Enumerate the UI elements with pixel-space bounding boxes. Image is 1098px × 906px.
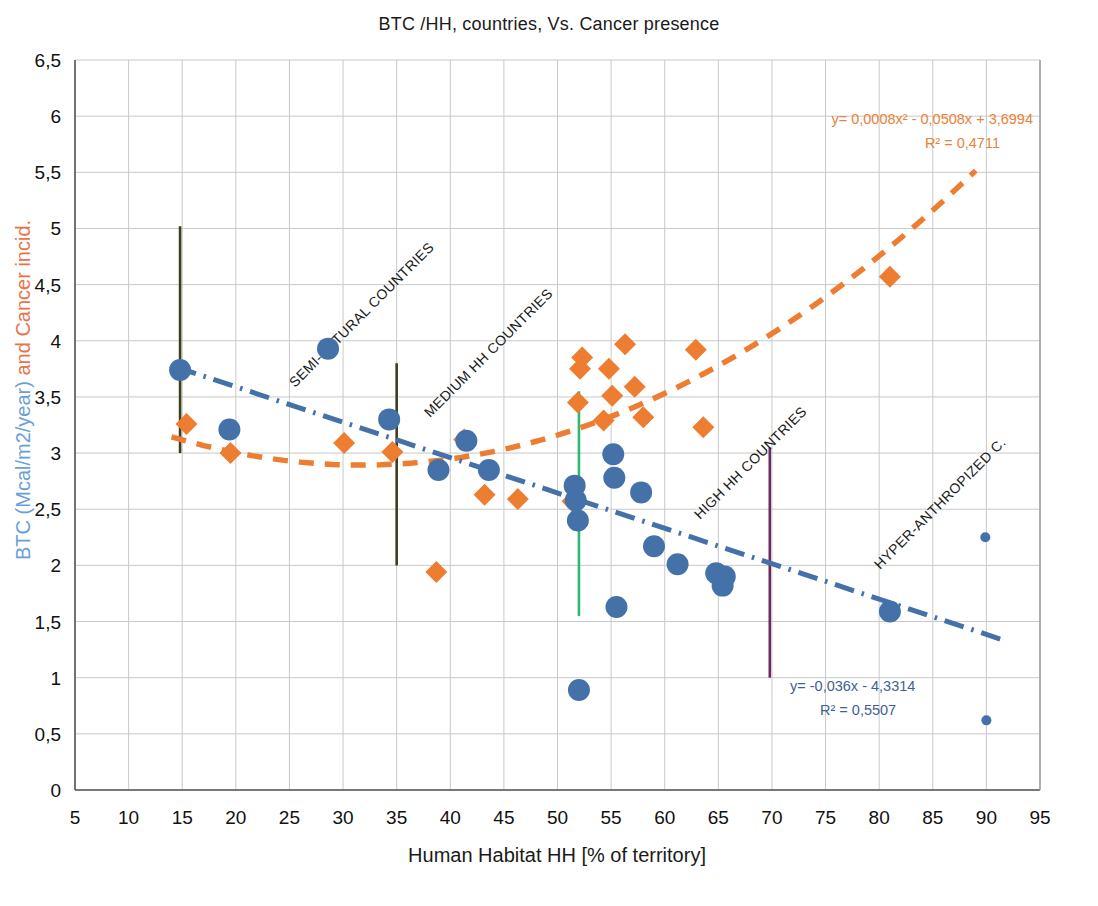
y-axis-tick-label: 4 bbox=[50, 331, 61, 352]
data-point-cancer bbox=[507, 488, 529, 510]
x-axis-tick-label: 80 bbox=[869, 807, 890, 828]
data-point-btc bbox=[568, 679, 590, 701]
data-point-cancer bbox=[624, 376, 646, 398]
x-axis-tick-label: 95 bbox=[1029, 807, 1050, 828]
x-axis-tick-label: 50 bbox=[547, 807, 568, 828]
data-point-btc bbox=[603, 467, 625, 489]
data-point-btc bbox=[667, 553, 689, 575]
y-axis-tick-label: 5,5 bbox=[35, 162, 61, 183]
data-point-btc bbox=[565, 489, 587, 511]
zone-label-2: HIGH HH COUNTRIES bbox=[691, 403, 810, 522]
y-axis-title-cancer: and Cancer incid. bbox=[12, 220, 34, 381]
data-point-btc bbox=[981, 715, 991, 725]
y-axis-tick-label: 1 bbox=[50, 668, 61, 689]
orange-equation-text: y= 0,0008x² - 0,0508x + 3,6994 bbox=[831, 111, 1033, 127]
x-axis-tick-label: 55 bbox=[601, 807, 622, 828]
data-point-btc bbox=[169, 359, 191, 381]
data-point-cancer bbox=[333, 432, 355, 454]
y-axis-tick-label: 0,5 bbox=[35, 724, 61, 745]
y-axis-tick-label: 4,5 bbox=[35, 275, 61, 296]
data-point-btc bbox=[879, 600, 901, 622]
orange-r2-text: R² = 0,4711 bbox=[925, 135, 1000, 151]
blue-equation-text: y= -0,036x - 4,3314 bbox=[790, 678, 915, 694]
data-point-cancer bbox=[381, 441, 403, 463]
data-point-btc bbox=[378, 408, 400, 430]
data-point-cancer bbox=[614, 333, 636, 355]
y-axis-tick-label: 6 bbox=[50, 106, 61, 127]
x-axis-tick-label: 5 bbox=[70, 807, 81, 828]
x-axis-tick-label: 45 bbox=[493, 807, 514, 828]
zone-label-3: HYPER-ANTHROPIZED C. bbox=[871, 434, 1009, 572]
data-point-cancer bbox=[685, 339, 707, 361]
data-point-btc bbox=[455, 430, 477, 452]
data-point-btc bbox=[317, 338, 339, 360]
x-axis-tick-label: 40 bbox=[440, 807, 461, 828]
data-point-btc bbox=[980, 532, 990, 542]
y-axis-tick-label: 1,5 bbox=[35, 612, 61, 633]
data-point-cancer bbox=[219, 442, 241, 464]
data-point-cancer bbox=[425, 561, 447, 583]
blue-r2-text: R² = 0,5507 bbox=[820, 702, 896, 718]
y-axis-tick-label: 6,5 bbox=[35, 50, 61, 71]
orange-trendline bbox=[172, 171, 976, 465]
data-point-btc bbox=[427, 459, 449, 481]
zone-label-1: MEDIUM HH COUNTRIES bbox=[421, 285, 556, 420]
x-axis-tick-label: 35 bbox=[386, 807, 407, 828]
y-axis-tick-label: 2,5 bbox=[35, 499, 61, 520]
x-axis-tick-label: 70 bbox=[761, 807, 782, 828]
data-point-cancer bbox=[692, 416, 714, 438]
x-axis-tick-label: 60 bbox=[654, 807, 675, 828]
data-point-cancer bbox=[567, 392, 589, 414]
x-axis-tick-label: 20 bbox=[225, 807, 246, 828]
x-axis-tick-label: 85 bbox=[922, 807, 943, 828]
y-axis-tick-label: 0 bbox=[50, 780, 61, 801]
x-axis-title: Human Habitat HH [% of territory] bbox=[408, 844, 706, 866]
y-axis-tick-label: 3 bbox=[50, 443, 61, 464]
chart-container: BTC /HH, countries, Vs. Cancer presence … bbox=[0, 0, 1098, 906]
x-axis-tick-label: 25 bbox=[279, 807, 300, 828]
y-axis-title-btc: BTC (Mcal/m2/year) bbox=[12, 381, 34, 560]
x-axis-tick-label: 15 bbox=[172, 807, 193, 828]
data-point-btc bbox=[567, 509, 589, 531]
data-point-cancer bbox=[601, 385, 623, 407]
data-point-btc bbox=[605, 596, 627, 618]
y-axis-title: BTC (Mcal/m2/year) and Cancer incid. bbox=[12, 220, 34, 560]
x-axis-tick-label: 90 bbox=[976, 807, 997, 828]
x-axis-tick-label: 10 bbox=[118, 807, 139, 828]
data-point-btc bbox=[643, 535, 665, 557]
data-point-btc bbox=[712, 575, 734, 597]
blue-trendline bbox=[177, 367, 1008, 641]
data-point-cancer bbox=[598, 358, 620, 380]
x-axis-tick-label: 75 bbox=[815, 807, 836, 828]
data-point-btc bbox=[602, 443, 624, 465]
y-axis-tick-label: 5 bbox=[50, 218, 61, 239]
zone-label-0: SEMI-NATURAL COUNTRIES bbox=[286, 239, 437, 390]
data-point-cancer bbox=[474, 484, 496, 506]
x-axis-tick-label: 65 bbox=[708, 807, 729, 828]
scatter-plot: 00,511,522,533,544,555,566,5510152025303… bbox=[0, 0, 1098, 906]
data-point-btc bbox=[478, 459, 500, 481]
x-axis-tick-label: 30 bbox=[332, 807, 353, 828]
y-axis-tick-label: 3,5 bbox=[35, 387, 61, 408]
data-point-btc bbox=[218, 418, 240, 440]
y-axis-tick-label: 2 bbox=[50, 555, 61, 576]
data-point-btc bbox=[630, 481, 652, 503]
